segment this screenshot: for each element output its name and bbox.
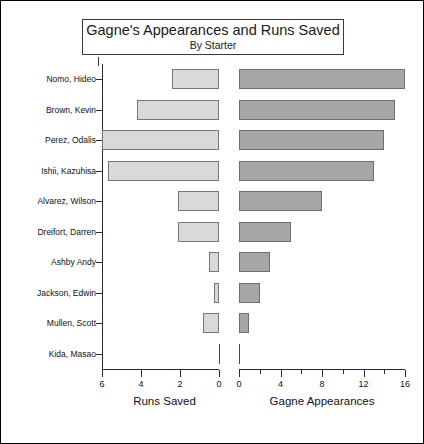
bar-gagne-appearances bbox=[239, 252, 270, 272]
bar-runs-saved bbox=[214, 283, 219, 303]
bar-runs-saved bbox=[203, 313, 219, 333]
gagne-appearances-tick bbox=[281, 370, 282, 377]
gagne-appearances-tick-label: 0 bbox=[236, 379, 241, 389]
gagne-appearances-axis-title: Gagne Appearances bbox=[270, 395, 375, 407]
category-axis-line bbox=[102, 64, 103, 369]
category-label: Dreifort, Darren bbox=[37, 227, 96, 237]
gagne-appearances-tick bbox=[301, 370, 302, 374]
plot-area: Nomo, HideoBrown, KevinPerez, OdalisIshi… bbox=[102, 64, 405, 369]
category-label: Alvarez, Wilson bbox=[37, 196, 96, 206]
bar-gagne-appearances bbox=[239, 283, 260, 303]
category-tick bbox=[96, 110, 102, 111]
category-label: Nomo, Hideo bbox=[46, 74, 96, 84]
bar-runs-saved bbox=[178, 222, 219, 242]
category-label: Mullen, Scott bbox=[47, 318, 96, 328]
category-label: Jackson, Edwin bbox=[37, 288, 96, 298]
category-tick bbox=[96, 323, 102, 324]
bar-runs-saved bbox=[172, 69, 219, 89]
chart-title-box: Gagne's Appearances and Runs Saved By St… bbox=[82, 19, 344, 55]
title-connector-line bbox=[98, 57, 99, 66]
bar-runs-saved-zero bbox=[219, 344, 220, 364]
category-label: Ashby Andy bbox=[51, 257, 96, 267]
runs-saved-tick-label: 4 bbox=[138, 379, 143, 389]
gagne-appearances-tick bbox=[405, 370, 406, 377]
category-label: Kida, Masao bbox=[49, 349, 96, 359]
gagne-appearances-tick bbox=[239, 370, 240, 377]
runs-saved-axis-line bbox=[102, 369, 219, 370]
category-tick bbox=[96, 354, 102, 355]
category-tick bbox=[96, 262, 102, 263]
runs-saved-tick-label: 6 bbox=[99, 379, 104, 389]
bar-runs-saved bbox=[178, 191, 219, 211]
category-tick bbox=[96, 79, 102, 80]
category-label: Perez, Odalis bbox=[45, 135, 96, 145]
category-tick bbox=[96, 171, 102, 172]
runs-saved-tick-label: 0 bbox=[216, 379, 221, 389]
bar-gagne-appearances bbox=[239, 222, 291, 242]
category-label: Ishii, Kazuhisa bbox=[41, 166, 96, 176]
category-label: Brown, Kevin bbox=[46, 105, 96, 115]
chart-subtitle: By Starter bbox=[83, 39, 343, 51]
bar-gagne-appearances bbox=[239, 100, 395, 120]
gagne-appearances-tick bbox=[384, 370, 385, 374]
category-tick bbox=[96, 293, 102, 294]
gagne-appearances-tick-label: 8 bbox=[319, 379, 324, 389]
gagne-appearances-tick-label: 12 bbox=[358, 379, 368, 389]
chart-title: Gagne's Appearances and Runs Saved bbox=[83, 22, 343, 39]
bar-runs-saved bbox=[137, 100, 219, 120]
runs-saved-tick bbox=[219, 370, 220, 377]
bar-gagne-appearances bbox=[239, 191, 322, 211]
runs-saved-axis-title: Runs Saved bbox=[133, 395, 196, 407]
bar-gagne-appearances-zero bbox=[239, 344, 240, 364]
category-tick bbox=[96, 201, 102, 202]
category-tick bbox=[96, 232, 102, 233]
gagne-appearances-tick bbox=[322, 370, 323, 377]
gagne-appearances-tick-label: 16 bbox=[400, 379, 410, 389]
runs-saved-tick bbox=[102, 370, 103, 377]
bar-gagne-appearances bbox=[239, 69, 405, 89]
bar-gagne-appearances bbox=[239, 161, 374, 181]
bar-runs-saved bbox=[209, 252, 219, 272]
gagne-appearances-tick bbox=[343, 370, 344, 374]
gagne-appearances-tick bbox=[260, 370, 261, 374]
runs-saved-tick bbox=[180, 370, 181, 377]
bar-gagne-appearances bbox=[239, 313, 249, 333]
bar-runs-saved bbox=[108, 161, 219, 181]
gagne-appearances-tick bbox=[364, 370, 365, 377]
bar-runs-saved bbox=[102, 130, 219, 150]
runs-saved-tick-label: 2 bbox=[177, 379, 182, 389]
bar-gagne-appearances bbox=[239, 130, 384, 150]
chart-container: Gagne's Appearances and Runs Saved By St… bbox=[0, 0, 424, 444]
gagne-appearances-tick-label: 4 bbox=[278, 379, 283, 389]
runs-saved-tick bbox=[141, 370, 142, 377]
